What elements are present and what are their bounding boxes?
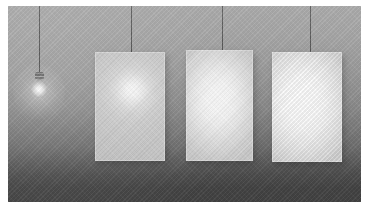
- cord-panel-2: [222, 6, 223, 50]
- cord-panel-3: [310, 6, 311, 52]
- cord-bulb: [39, 6, 40, 74]
- light-diffusion-render: [0, 0, 369, 208]
- panel-2-glow: [186, 50, 253, 161]
- bulb-glass-envelope: [31, 80, 47, 98]
- bulb-socket-cap: [35, 72, 44, 79]
- cord-panel-1: [131, 6, 132, 52]
- panel-1: [95, 52, 165, 161]
- panel-3-glow: [272, 52, 342, 162]
- panel-1-glow: [95, 52, 165, 161]
- render-viewport: [8, 6, 361, 202]
- panel-3: [272, 52, 342, 162]
- panel-2: [186, 50, 253, 161]
